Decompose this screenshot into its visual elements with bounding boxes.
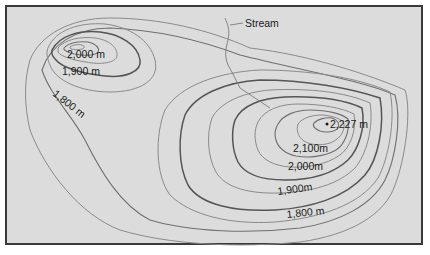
label-right-2100: 2,100m <box>293 142 328 154</box>
contour-right-2050 <box>255 104 355 167</box>
stream-label: Stream <box>245 17 279 29</box>
label-left-1900: 1,900 m <box>62 65 100 77</box>
label-left-2000: 2,000 m <box>67 48 105 60</box>
label-right-peak: 2,227 m <box>330 118 368 130</box>
label-right-1900: 1,900m <box>277 180 314 197</box>
label-right-2000: 2,000m <box>288 160 323 172</box>
contour-lines: Stream 2,000 m 1,900 m 1,800 m 2,227 m 2… <box>5 5 430 255</box>
topographic-map: Stream 2,000 m 1,900 m 1,800 m 2,227 m 2… <box>5 5 423 245</box>
label-right-1800: 1,800 m <box>286 204 325 220</box>
stream-leader-line <box>230 23 243 25</box>
summit-marker-icon <box>326 123 329 126</box>
